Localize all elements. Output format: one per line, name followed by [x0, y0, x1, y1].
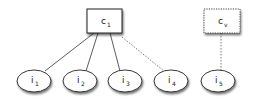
node-i1: i 1 [17, 70, 51, 92]
diagram-svg: c 1 c v i 1 i 2 i 3 i 4 i 5 [0, 0, 256, 102]
node-i5: i 5 [201, 70, 235, 92]
edge-c1-i2 [86, 33, 98, 71]
edge-c1-i3 [110, 33, 120, 71]
node-cv-sub: v [224, 21, 228, 28]
node-i2: i 2 [63, 70, 97, 92]
node-i5-label: i [215, 75, 218, 85]
node-i3-sub: 3 [126, 80, 130, 87]
edge-c1-i1 [45, 33, 94, 71]
node-c1-sub: 1 [107, 21, 111, 28]
node-i2-sub: 2 [81, 80, 85, 87]
node-i4-sub: 4 [172, 80, 176, 87]
node-i3: i 3 [108, 70, 142, 92]
node-c1-label: c [101, 16, 106, 26]
node-i4: i 4 [154, 70, 188, 92]
node-i1-sub: 1 [35, 80, 39, 87]
node-cv-label: c [218, 16, 223, 26]
node-c1: c 1 [87, 9, 122, 33]
diagram-canvas: c 1 c v i 1 i 2 i 3 i 4 i 5 [0, 0, 256, 102]
node-i4-label: i [168, 75, 171, 85]
node-cv: c v [204, 9, 240, 33]
edges [45, 33, 221, 71]
node-i1-label: i [31, 75, 34, 85]
node-i2-label: i [77, 75, 80, 85]
node-i5-sub: 5 [219, 80, 223, 87]
edge-c1-i4 [122, 37, 164, 71]
node-i3-label: i [122, 75, 125, 85]
